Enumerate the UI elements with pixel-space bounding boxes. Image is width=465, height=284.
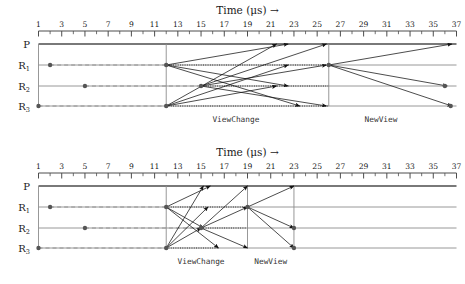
event-dot <box>36 104 40 108</box>
axis-tick-label: 13 <box>173 162 183 171</box>
axis-title: Time (μs) → <box>216 4 279 16</box>
axis-tick-label: 17 <box>219 20 229 29</box>
axis-tick-label: 11 <box>150 20 160 29</box>
message-arrow <box>166 65 288 86</box>
timeline-diagram-top: Time (μs) →13579111315171921232527293133… <box>0 0 465 142</box>
event-dot <box>245 205 249 209</box>
message-arrow <box>248 207 294 228</box>
axis-tick-label: 9 <box>129 162 134 171</box>
timeline-svg-top: Time (μs) →13579111315171921232527293133… <box>0 0 465 142</box>
event-dot <box>83 226 87 230</box>
axis-tick-label: 7 <box>106 20 111 29</box>
event-dot <box>164 205 168 209</box>
axis-tick-label: 27 <box>336 20 346 29</box>
message-arrow <box>201 228 247 248</box>
axis-tick-label: 35 <box>428 20 438 29</box>
event-dot <box>443 84 447 88</box>
message-arrow <box>248 207 294 248</box>
event-dot <box>448 104 452 108</box>
event-dot <box>48 205 52 209</box>
lane-label-r1: R1 <box>18 202 30 216</box>
axis-tick-label: 25 <box>312 162 322 171</box>
lane-label-p: P <box>23 181 30 192</box>
phase-label: NewView <box>254 257 287 266</box>
axis-tick-label: 33 <box>405 20 415 29</box>
axis-tick-label: 1 <box>36 20 41 29</box>
event-dot <box>83 84 87 88</box>
axis-tick-label: 17 <box>219 162 229 171</box>
axis-tick-label: 37 <box>452 20 462 29</box>
axis-tick-label: 27 <box>336 162 346 171</box>
event-dot <box>164 63 168 67</box>
message-arrow <box>329 44 452 65</box>
lane-label-r1: R1 <box>18 60 30 74</box>
axis-tick-label: 21 <box>266 162 276 171</box>
message-arrow <box>166 65 288 106</box>
axis-tick-label: 13 <box>173 20 183 29</box>
event-dot <box>327 63 331 67</box>
axis-tick-label: 21 <box>266 20 276 29</box>
timeline-svg-bottom: Time (μs) →13579111315171921232527293133… <box>0 142 465 284</box>
lane-label-p: P <box>23 39 30 50</box>
event-dot <box>292 246 296 250</box>
message-arrow <box>166 186 210 207</box>
phase-label: NewView <box>365 115 398 124</box>
event-dot <box>164 246 168 250</box>
message-arrow <box>329 65 447 86</box>
timeline-diagram-bottom: Time (μs) →13579111315171921232527293133… <box>0 142 465 284</box>
event-dot <box>292 226 296 230</box>
lane-label-r3: R3 <box>18 101 30 115</box>
axis-title: Time (μs) → <box>216 146 279 158</box>
axis-tick-label: 31 <box>382 162 392 171</box>
event-dot <box>199 84 203 88</box>
axis-tick-label: 33 <box>405 162 415 171</box>
axis-tick-label: 19 <box>243 20 253 29</box>
axis-tick-label: 1 <box>36 162 41 171</box>
axis-tick-label: 25 <box>312 20 322 29</box>
axis-tick-label: 7 <box>106 162 111 171</box>
axis-tick-label: 5 <box>83 162 88 171</box>
axis-tick-label: 11 <box>150 162 160 171</box>
axis-tick-label: 3 <box>59 162 64 171</box>
message-arrow <box>201 207 247 228</box>
axis-tick-label: 31 <box>382 20 392 29</box>
axis-tick-label: 9 <box>129 20 134 29</box>
event-dot <box>48 63 52 67</box>
lane-label-r2: R2 <box>18 81 30 95</box>
axis-tick-label: 15 <box>196 162 206 171</box>
axis-tick-label: 19 <box>243 162 253 171</box>
axis-tick-label: 23 <box>289 162 299 171</box>
axis-tick-label: 29 <box>359 20 369 29</box>
message-arrow <box>329 65 452 106</box>
event-dot <box>164 104 168 108</box>
axis-tick-label: 3 <box>59 20 64 29</box>
axis-tick-label: 5 <box>83 20 88 29</box>
message-arrow <box>248 186 294 207</box>
event-dot <box>36 246 40 250</box>
message-arrow <box>166 44 288 65</box>
event-dot <box>199 226 203 230</box>
axis-tick-label: 29 <box>359 162 369 171</box>
axis-tick-label: 23 <box>289 20 299 29</box>
phase-label: ViewChange <box>178 257 225 266</box>
lane-label-r2: R2 <box>18 223 30 237</box>
lane-label-r3: R3 <box>18 243 30 257</box>
message-arrow <box>166 44 276 106</box>
axis-tick-label: 37 <box>452 162 462 171</box>
axis-tick-label: 15 <box>196 20 206 29</box>
phase-label: ViewChange <box>212 115 259 124</box>
axis-tick-label: 35 <box>428 162 438 171</box>
